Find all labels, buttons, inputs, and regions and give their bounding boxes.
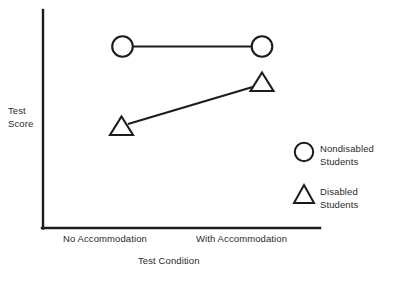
data-point-nondisabled-with-accommodation xyxy=(252,36,273,57)
x-tick-label-no-accommodation: No Accommodation xyxy=(63,233,147,246)
y-axis-label-line-1: Test xyxy=(8,105,42,118)
data-point-disabled-with-accommodation xyxy=(251,73,274,92)
legend-label-disabled-line-1: Disabled xyxy=(320,186,358,199)
legend-label-nondisabled-line-2: Students xyxy=(320,156,374,169)
chart-figure: Test Score No Accommodation With Accommo… xyxy=(0,0,396,281)
x-axis-label: Test Condition xyxy=(138,255,200,268)
x-tick-label-with-accommodation: With Accommodation xyxy=(196,233,287,246)
y-axis-label-line-2: Score xyxy=(8,118,42,131)
data-point-nondisabled-no-accommodation xyxy=(112,36,133,57)
legend-label-disabled: Disabled Students xyxy=(320,186,358,211)
legend-triangle-icon xyxy=(294,185,314,203)
series-line-disabled xyxy=(128,86,256,124)
y-axis-label: Test Score xyxy=(8,105,42,130)
data-point-disabled-no-accommodation xyxy=(110,117,133,136)
legend-label-disabled-line-2: Students xyxy=(320,199,358,212)
legend-label-nondisabled: Nondisabled Students xyxy=(320,143,374,168)
legend-circle-icon xyxy=(295,143,313,161)
legend-label-nondisabled-line-1: Nondisabled xyxy=(320,143,374,156)
